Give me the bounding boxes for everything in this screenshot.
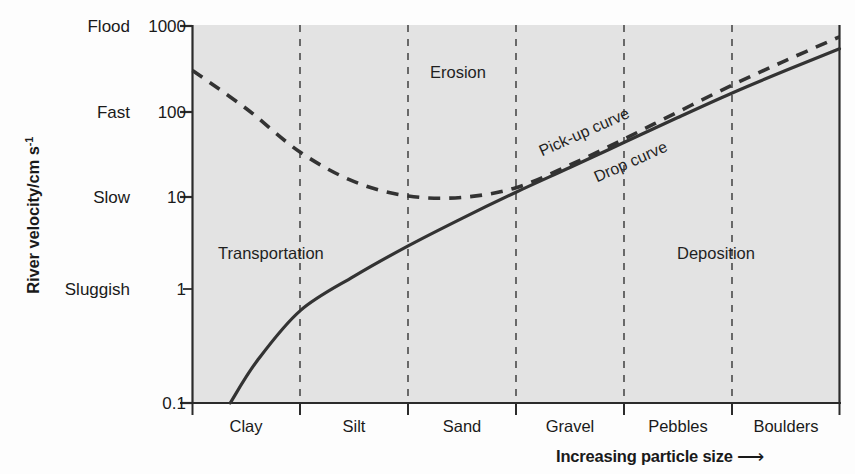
y-word-label-flood: Flood <box>10 18 130 35</box>
x-category-label-boulders: Boulders <box>732 418 840 435</box>
x-category-label-gravel: Gravel <box>516 418 624 435</box>
y-axis-word-labels: Flood Fast Slow Sluggish <box>20 0 130 474</box>
y-num-label-1000: 1000 <box>118 18 186 35</box>
x-axis-title: Increasing particle size ⟶ <box>556 447 764 466</box>
y-num-label-100: 100 <box>118 104 186 121</box>
x-category-label-sand: Sand <box>408 418 516 435</box>
y-num-label-1: 1 <box>118 281 186 298</box>
right-arrow-icon: ⟶ <box>737 449 764 465</box>
region-label-transportation: Transportation <box>218 245 324 262</box>
region-label-deposition: Deposition <box>677 245 755 262</box>
x-category-label-silt: Silt <box>300 418 408 435</box>
y-word-label-slow: Slow <box>10 189 130 206</box>
y-axis-numeric-labels: 1000 100 10 1 0.1 <box>118 0 186 474</box>
x-axis-ticks <box>193 403 840 415</box>
y-word-label-fast: Fast <box>10 104 130 121</box>
x-axis-title-text: Increasing particle size <box>556 447 733 465</box>
y-num-label-0.1: 0.1 <box>118 395 186 412</box>
x-category-label-pebbles: Pebbles <box>624 418 732 435</box>
y-num-label-10: 10 <box>118 189 186 206</box>
y-word-label-sluggish: Sluggish <box>10 281 130 298</box>
river-velocity-particle-size-chart: River velocity/cm s-1 Flood Fast Slow Sl… <box>0 0 855 474</box>
region-label-erosion: Erosion <box>430 64 486 81</box>
x-category-label-clay: Clay <box>192 418 300 435</box>
